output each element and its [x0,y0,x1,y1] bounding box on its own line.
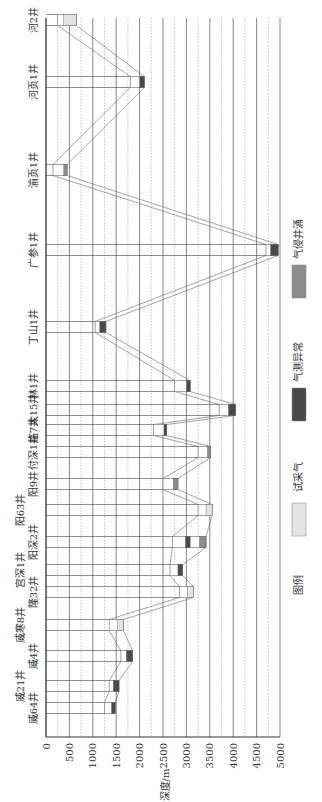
well-label: 河2井 [27,7,39,33]
well-label: 威21井 [14,670,26,703]
depth-tick-label: 4500 [251,743,262,768]
gas-show-interval [64,15,77,26]
well-label: 威4井 [27,643,39,669]
legend-swatch [292,503,306,536]
well-label: 丁山1井 [27,309,39,345]
legend-swatch [292,388,306,421]
legend: 图例试采气气测异常气侵井涌 [292,219,306,595]
gas-show-interval [164,425,167,436]
gas-show-interval [117,620,123,631]
legend-label: 气测异常 [292,342,304,382]
gas-show-interval [178,565,183,576]
depth-tick-label: 2500 [158,743,169,768]
gas-show-interval [173,479,178,490]
gas-show-interval [187,587,193,598]
well-columns [46,15,278,714]
gas-show-interval [112,703,116,714]
well-label: 林1井 [27,373,39,399]
legend-label: 试采气 [292,462,304,492]
depth-tick-label: 2000 [134,743,145,768]
well-label: 阳9井 [27,471,39,497]
well-label: 阳63井 [14,494,26,527]
depth-tick-label: 5000 [275,743,286,768]
depth-tick-label: 4000 [228,743,239,768]
legend-label: 气侵井涌 [292,219,304,259]
well-label: 阳深2井 [27,524,39,560]
well-label: 渝页1井 [27,152,39,188]
depth-tick-label: 1000 [87,743,98,768]
depth-axis-title: 深度/m [159,768,171,801]
well-depth-chart: 0500100015002000250030003500400045005000… [0,0,322,802]
well-label: 威寒8井 [14,607,26,643]
depth-tick-label: 0 [41,743,52,749]
legend-swatch [292,265,306,298]
gas-show-interval [100,322,106,333]
gas-show-interval [207,447,210,458]
gas-show-interval [126,651,132,662]
depth-tick-label: 1500 [111,743,122,768]
gas-show-interval [186,381,190,392]
gas-show-interval [206,505,212,516]
well-label: 广参1井 [27,232,39,268]
gas-show-interval [271,245,278,256]
well-connection-bands [53,26,278,703]
depth-tick-label: 3000 [181,743,192,768]
well-label: 威64井 [27,692,39,725]
gas-show-interval [229,405,236,416]
well-label: 河页1井 [27,64,39,100]
depth-tick-label: 3500 [204,743,215,768]
gas-show-interval [185,537,190,548]
gas-show-interval [200,537,207,548]
depth-tick-label: 500 [64,743,75,762]
legend-title: 图例 [292,575,304,595]
well-label: 宫深1井 [14,552,26,588]
well-label: 隆32井 [27,576,39,609]
grid-lines [46,18,280,737]
gas-show-interval [140,77,145,88]
gas-show-interval [64,165,67,176]
well-labels: 威64井威21井威4井威寒8井隆32井宫深1井阳深2井阳63井阳9井付深1井临7… [14,7,39,725]
gas-show-interval [113,681,119,692]
